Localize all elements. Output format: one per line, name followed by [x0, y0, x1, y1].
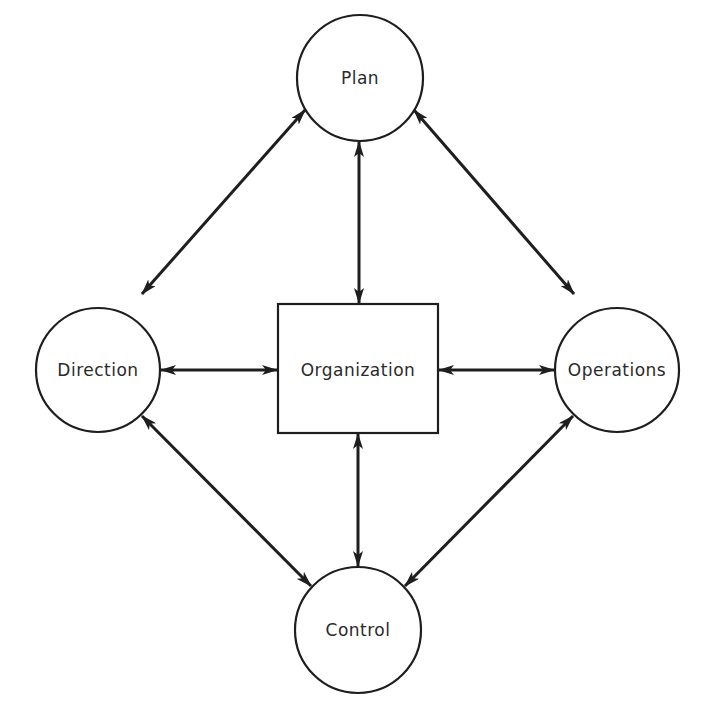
management-cycle-diagram: Plan Direction Organization Operations C… — [0, 0, 717, 728]
arrow-plan-operations — [414, 110, 574, 294]
node-plan: Plan — [297, 15, 423, 141]
arrow-plan-direction — [142, 110, 305, 294]
operations-label: Operations — [568, 360, 666, 380]
node-direction: Direction — [36, 308, 160, 432]
plan-label: Plan — [341, 68, 379, 88]
node-organization: Organization — [278, 304, 438, 433]
arrow-direction-control — [142, 416, 311, 586]
control-label: Control — [326, 620, 391, 640]
organization-label: Organization — [301, 360, 416, 380]
arrow-operations-control — [405, 416, 573, 586]
node-control: Control — [295, 567, 421, 693]
node-operations: Operations — [555, 308, 679, 432]
direction-label: Direction — [57, 360, 138, 380]
